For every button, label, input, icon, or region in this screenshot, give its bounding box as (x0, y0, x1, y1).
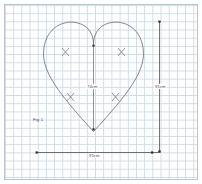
dimension-label-height-right: 91cm (154, 84, 167, 89)
marker-x-top-right (118, 48, 125, 56)
marker-x-bottom-left (67, 93, 74, 101)
marker-x-top-left (62, 48, 69, 56)
marker-x-bottom-right (112, 93, 119, 101)
figure-sheet: 74cm 91cm 91cm Fig 1 (0, 0, 202, 184)
dimension-label-width-bottom: 91cm (88, 153, 101, 158)
dimension-label-height-center: 74cm (86, 84, 99, 89)
figure-drawing (0, 0, 202, 184)
figure-caption: Fig 1 (33, 118, 43, 122)
